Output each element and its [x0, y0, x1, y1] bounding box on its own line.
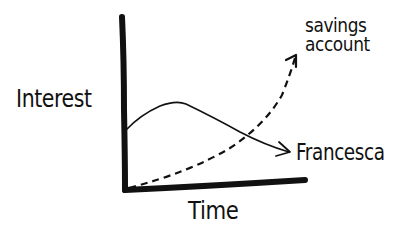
francesca-label: Francesca [296, 139, 385, 165]
x-axis [125, 180, 305, 190]
savings-account-curve [129, 58, 295, 188]
y-axis [122, 17, 125, 190]
savings-account-label: savings account [305, 16, 370, 54]
y-axis-label: Interest [16, 84, 92, 113]
savings-label-line2: account [305, 35, 370, 54]
x-axis-label: Time [188, 196, 238, 225]
francesca-curve [126, 102, 289, 152]
